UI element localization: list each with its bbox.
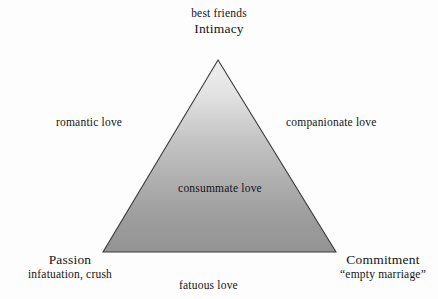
side-label-companionate-love: companionate love (286, 116, 377, 130)
passion-component: Passion (2, 252, 138, 268)
vertex-label-intimacy: best friends Intimacy (159, 7, 279, 36)
center-label-consummate-love: consummate love (160, 182, 280, 196)
commitment-descriptor: “empty marriage” (328, 268, 438, 282)
intimacy-descriptor: best friends (159, 7, 279, 21)
love-triangle-figure: best friends Intimacy romantic love comp… (0, 0, 438, 299)
vertex-label-passion: Passion infatuation, crush (2, 252, 138, 281)
side-label-romantic-love: romantic love (56, 116, 122, 130)
commitment-component: Commitment (328, 252, 438, 268)
side-label-fatuous-love: fatuous love (179, 279, 238, 293)
passion-descriptor: infatuation, crush (2, 268, 138, 282)
vertex-label-commitment: Commitment “empty marriage” (328, 252, 438, 281)
intimacy-component: Intimacy (159, 21, 279, 37)
triangle-shape (103, 60, 336, 252)
